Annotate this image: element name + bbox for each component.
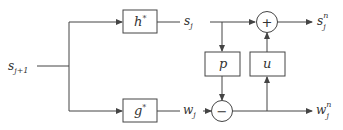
h-filter-box: h*: [123, 10, 157, 33]
add-node: +: [257, 12, 278, 33]
svg-text:sj+1: sj+1: [8, 59, 28, 75]
predict-box: p: [205, 52, 240, 76]
update-box: u: [250, 52, 285, 76]
lifting-diagram: sj+1 h* g* sj wj p −: [0, 0, 343, 130]
svg-text:+: +: [262, 15, 273, 30]
svg-text:wj: wj: [183, 103, 196, 119]
wj-label: wj: [183, 103, 196, 119]
output-sjn-label: snj: [317, 11, 328, 31]
svg-text:sj: sj: [184, 14, 193, 30]
svg-text:p: p: [219, 56, 228, 71]
subtract-node: −: [212, 101, 233, 122]
g-filter-box: g*: [123, 99, 157, 122]
sj-label: sj: [184, 14, 193, 30]
input-label: sj+1: [8, 59, 28, 75]
output-wjn-label: wnj: [316, 100, 331, 120]
svg-text:u: u: [263, 56, 271, 71]
svg-text:wnj: wnj: [316, 100, 331, 120]
svg-text:−: −: [217, 104, 228, 119]
svg-text:snj: snj: [317, 11, 328, 31]
